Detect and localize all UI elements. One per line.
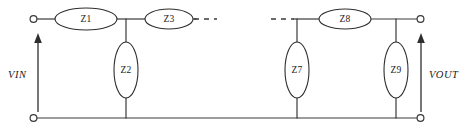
z7-label: Z7 [291,65,302,75]
component-z3[interactable]: Z3 [145,9,193,29]
z3-label: Z3 [163,14,174,24]
circuit-schematic-canvas: Z1 Z3 Z8 Z2 Z7 Z9 [0,0,461,131]
vin-arrow-group [34,33,42,112]
z1-label: Z1 [80,14,91,24]
output-terminal-top[interactable] [417,16,424,23]
up-arrow-icon [417,33,425,43]
output-terminal-bottom[interactable] [417,115,424,122]
component-z7[interactable]: Z7 [285,42,309,98]
z8-label: Z8 [339,14,350,24]
component-z9[interactable]: Z9 [384,42,408,98]
vout-label: VOUT [429,69,459,80]
z2-label: Z2 [120,65,131,75]
input-terminal-top[interactable] [30,16,37,23]
input-terminal-bottom[interactable] [30,115,37,122]
z9-label: Z9 [390,65,401,75]
component-z1[interactable]: Z1 [55,8,117,30]
up-arrow-icon [34,33,42,43]
component-z2[interactable]: Z2 [114,42,138,98]
vin-label: VIN [8,69,27,80]
vout-arrow-group [417,33,425,112]
component-z8[interactable]: Z8 [319,9,371,29]
circuit-diagram: Z1 Z3 Z8 Z2 Z7 Z9 [0,0,461,131]
